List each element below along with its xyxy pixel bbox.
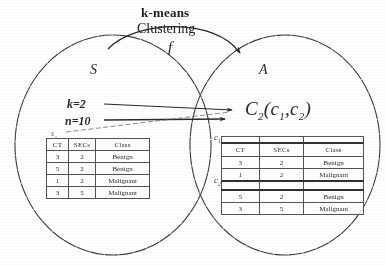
result-arg1: c [270, 98, 279, 119]
source-set-label: S [90, 63, 97, 77]
header-ct: CT [222, 143, 260, 157]
separator-cell [304, 181, 364, 190]
kmeans-label: k-means [141, 6, 189, 19]
source-data-table: CT SECs Class 3 2 Benign 5 2 Benign 1 2 … [46, 138, 150, 199]
header-secs: SECs [68, 139, 95, 151]
diagram-canvas: k-means Clustering f S A k=2 n=10 C2(c1,… [0, 0, 385, 265]
header-secs: SECs [259, 143, 304, 157]
clustered-data-table: CT SECs Class 3 2 Benign 1 2 Malignant 5 [221, 136, 364, 215]
cell-secs: 2 [259, 169, 304, 182]
result-expression: C2(c1,c2) [245, 99, 311, 122]
table-header-row: CT SECs Class [222, 143, 364, 157]
separator-cell [222, 181, 260, 190]
table-header-row: CT SECs Class [47, 139, 150, 151]
n-parameter-label: n=10 [65, 115, 91, 127]
header-class: Class [304, 143, 364, 157]
cell-secs: 5 [259, 203, 304, 215]
cell-secs: 2 [68, 175, 95, 187]
result-close-paren: ) [305, 98, 312, 119]
cell-ct: 3 [222, 157, 260, 169]
cell-ct: 1 [47, 175, 69, 187]
cell-class: Benign [304, 157, 364, 169]
header-class: Class [96, 139, 150, 151]
table-row: 3 2 Benign [222, 157, 364, 169]
table-row: 1 2 Malignant [222, 169, 364, 182]
cell-class: Malignant [96, 187, 150, 199]
separator-cell [259, 181, 304, 190]
cell-class: Benign [96, 151, 150, 163]
cell-secs: 2 [259, 157, 304, 169]
cell-ct: 1 [222, 169, 260, 182]
cluster1-label: c1 [214, 133, 221, 144]
cell-class: Malignant [96, 175, 150, 187]
cell-secs: 5 [68, 187, 95, 199]
table-row: 1 2 Malignant [47, 175, 150, 187]
result-main: C [245, 98, 258, 119]
function-symbol-label: f [168, 40, 172, 55]
cell-secs: 2 [68, 163, 95, 175]
cell-ct: 3 [47, 187, 69, 199]
cluster-separator-row [222, 181, 364, 190]
table-lead-line [66, 112, 230, 132]
diagram-vector-layer [0, 0, 385, 265]
result-arg2: c [290, 98, 299, 119]
cell-ct: 3 [222, 203, 260, 215]
header-ct: CT [47, 139, 69, 151]
table-row: 5 2 Benign [222, 190, 364, 203]
cell-secs: 2 [259, 190, 304, 203]
cell-class: Malignant [304, 169, 364, 182]
table-row: 5 2 Benign [47, 163, 150, 175]
cell-ct: 5 [222, 190, 260, 203]
clustering-label: Clustering [137, 22, 195, 36]
table-row: 3 2 Benign [47, 151, 150, 163]
cell-class: Benign [304, 190, 364, 203]
target-set-label: A [259, 63, 268, 77]
table-row: 3 5 Malignant [47, 187, 150, 199]
cluster2-label: c2 [214, 176, 221, 187]
cell-class: Malignant [304, 203, 364, 215]
cell-ct: 5 [47, 163, 69, 175]
table-row: 3 5 Malignant [222, 203, 364, 215]
cell-ct: 3 [47, 151, 69, 163]
k-parameter-label: k=2 [67, 98, 86, 110]
k-param-arrow [104, 104, 232, 110]
cell-secs: 2 [68, 151, 95, 163]
cell-class: Benign [96, 163, 150, 175]
